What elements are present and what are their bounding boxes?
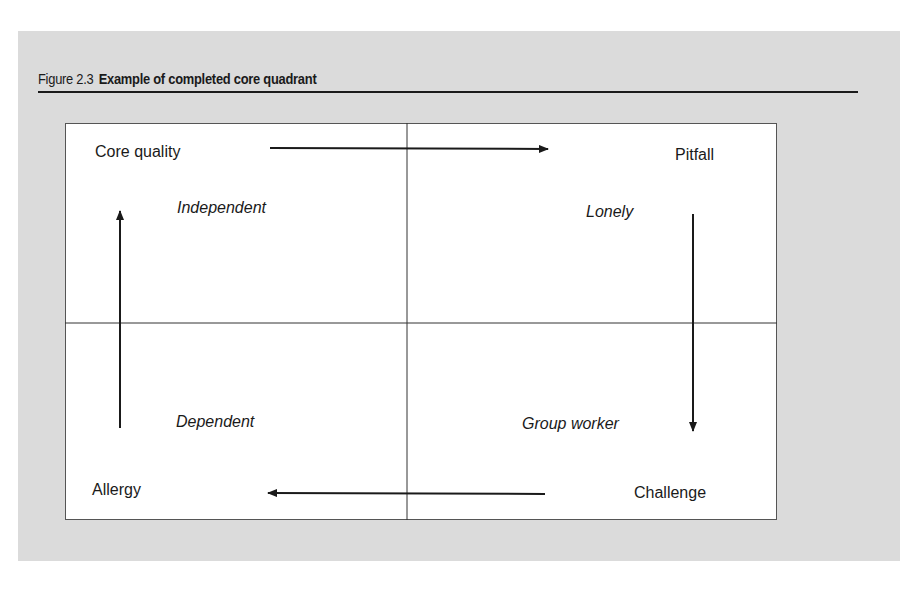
corner-core-quality: Core quality — [95, 143, 180, 161]
arrow-core-to-pitfall — [270, 148, 548, 149]
quadrant-lines — [0, 0, 924, 589]
arrow-challenge-to-allergy — [268, 493, 545, 494]
example-independent: Independent — [177, 199, 266, 217]
corner-challenge: Challenge — [634, 484, 706, 502]
example-dependent: Dependent — [176, 413, 254, 431]
corner-allergy: Allergy — [92, 481, 141, 499]
corner-pitfall: Pitfall — [675, 146, 714, 164]
example-group-worker: Group worker — [522, 415, 619, 433]
example-lonely: Lonely — [586, 203, 633, 221]
